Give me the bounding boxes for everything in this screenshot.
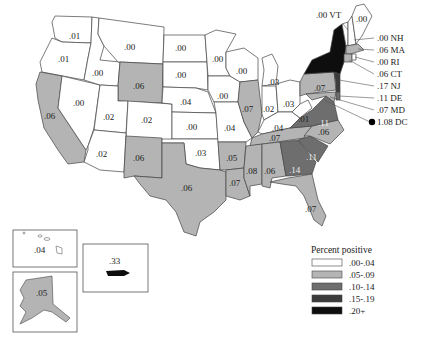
label-co: .02 [141, 115, 152, 125]
label-ne: .04 [180, 97, 192, 107]
state-ny [304, 24, 346, 74]
callout-md: .07 MD [377, 105, 406, 115]
legend-swatch-2 [312, 283, 342, 290]
legend-label-4: .20+ [349, 306, 365, 316]
hawaii-inset: .04 [13, 230, 77, 267]
legend-label-1: .05-.09 [349, 270, 375, 280]
label-al: .06 [264, 166, 276, 176]
label-nm: .06 [133, 153, 145, 163]
legend-swatch-0 [312, 259, 342, 266]
label-nv: .00 [73, 98, 85, 108]
label-sc: .11 [306, 152, 317, 162]
label-wa: .01 [69, 31, 80, 41]
legend-swatch-1 [312, 271, 342, 278]
legend-label-0: .00-.04 [349, 258, 375, 268]
label-az: .02 [96, 149, 107, 159]
label-ut: .02 [103, 112, 114, 122]
callout-de: .11 DE [377, 93, 403, 103]
callout-ct: .06 CT [377, 69, 403, 79]
label-mo: .04 [224, 123, 236, 133]
label-in: .02 [263, 104, 274, 114]
state-md [306, 92, 336, 102]
label-or: .01 [58, 54, 69, 64]
label-ky: .04 [272, 123, 284, 133]
state-mt [98, 18, 164, 64]
legend-swatch-3 [312, 295, 342, 302]
label-id: .00 [92, 68, 104, 78]
callout-nj: .17 NJ [377, 81, 401, 91]
label-sd: .00 [175, 70, 187, 80]
label-ia: .00 [217, 91, 229, 101]
callout-ri: .00 RI [377, 57, 400, 67]
label-ga: .14 [289, 165, 301, 175]
label-wy: .06 [133, 81, 145, 91]
legend-label-3: .15-.19 [349, 294, 375, 304]
callout-dc: 1.08 DC [377, 117, 408, 127]
label-ak: .05 [36, 288, 48, 298]
label-fl: .07 [305, 204, 317, 214]
us-choropleth-map: .01 .01 .00 .00 .06 .06 .00 .02 .02 .02 … [0, 0, 433, 341]
legend: Percent positive .00-.04 .05-.09 .10-.14… [311, 245, 375, 316]
callout-nh: .00 NH [377, 33, 404, 43]
label-nd: .00 [175, 43, 187, 53]
legend-swatch-4 [312, 307, 342, 314]
label-me: .00 [356, 14, 368, 24]
state-me [352, 4, 372, 44]
puerto-rico-inset: .33 [83, 244, 148, 292]
label-wi: .00 [236, 66, 248, 76]
legend-title: Percent positive [311, 245, 372, 255]
label-ok: .03 [195, 148, 207, 158]
dc-marker-icon [369, 119, 375, 125]
label-wv: .01 [298, 114, 309, 124]
label-tx: .06 [181, 183, 193, 193]
callout-vt: .00 VT [316, 10, 342, 20]
label-ms: .08 [246, 166, 258, 176]
label-nc: .06 [318, 127, 330, 137]
label-ar: .05 [226, 153, 238, 163]
label-oh: .03 [283, 99, 295, 109]
label-la: .07 [229, 178, 241, 188]
legend-label-2: .10-.14 [349, 282, 375, 292]
label-mt: .00 [124, 42, 136, 52]
label-pa: .07 [314, 83, 326, 93]
label-hi: .04 [34, 245, 46, 255]
label-va: .11 [318, 118, 329, 128]
alaska-inset: .05 [13, 272, 77, 332]
label-il: .07 [242, 104, 254, 114]
label-tn: .07 [269, 133, 281, 143]
label-mi: .03 [268, 77, 280, 87]
label-pr: .33 [109, 256, 121, 266]
label-ks: .00 [186, 122, 198, 132]
callout-ma: .06 MA [377, 45, 406, 55]
label-ca: .06 [44, 111, 56, 121]
state-fl [270, 174, 326, 226]
label-mn: .00 [212, 54, 224, 64]
